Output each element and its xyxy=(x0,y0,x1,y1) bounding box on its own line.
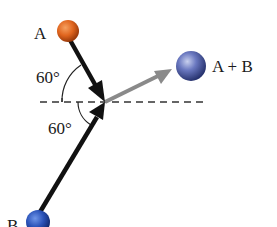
particle-ab xyxy=(176,51,206,81)
arrow-a-shaft xyxy=(70,40,97,88)
particle-a xyxy=(57,20,79,42)
angle-label-b: 60° xyxy=(48,119,72,138)
label-a: A xyxy=(34,24,47,43)
arrow-a-head xyxy=(88,80,105,102)
angle-label-a: 60° xyxy=(36,68,60,87)
particle-b xyxy=(26,210,50,227)
outgoing-arrow-shaft xyxy=(105,75,160,102)
label-ab: A + B xyxy=(212,57,253,76)
label-b: B xyxy=(7,216,18,227)
collision-diagram: A B A + B 60° 60° xyxy=(0,0,277,227)
angle-arc-b xyxy=(78,102,91,125)
angle-arc-a xyxy=(62,65,81,102)
